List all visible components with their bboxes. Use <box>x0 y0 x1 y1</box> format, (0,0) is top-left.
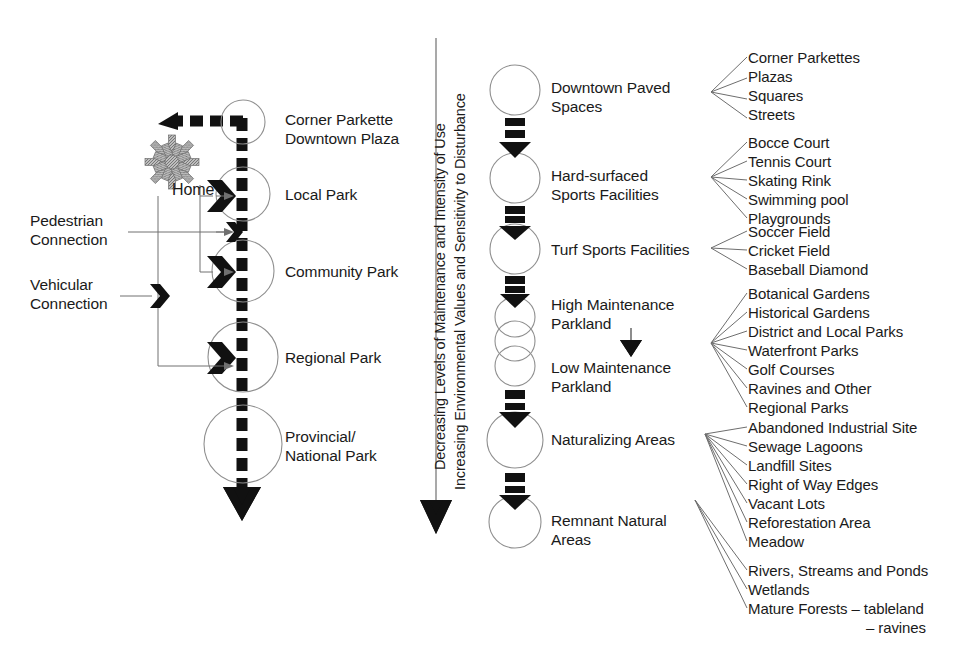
mid-node-label-downtown-paved-line2: Spaces <box>551 97 602 116</box>
left-node-label-provincial-park-line1: Provincial/ <box>285 427 355 446</box>
list-item: Ravines and Other <box>748 379 871 399</box>
axis-label-maintenance: Decreasing Levels of Maintenance and Int… <box>432 123 448 470</box>
list-item: Squares <box>748 86 803 106</box>
left-node-label-corner-parkette-line1: Corner Parkette <box>285 110 393 129</box>
list-item: Mature Forests – tableland <box>748 599 924 619</box>
list-item: District and Local Parks <box>748 322 903 342</box>
left-node-label-regional-park: Regional Park <box>285 348 381 367</box>
left-node-label-community-park: Community Park <box>285 262 398 281</box>
mid-node-label-high-maintenance-line2: Parkland <box>551 314 611 333</box>
left-trunk-dashed-path <box>223 118 261 521</box>
list-item: Vacant Lots <box>748 494 825 514</box>
list-item: Cricket Field <box>748 241 830 261</box>
list-item: Plazas <box>748 67 792 87</box>
list-item: Botanical Gardens <box>748 284 870 304</box>
list-item: Waterfront Parks <box>748 341 858 361</box>
list-item: Soccer Field <box>748 222 830 242</box>
list-item: – ravines <box>866 618 926 638</box>
list-item: Baseball Diamond <box>748 260 868 280</box>
mid-node-label-low-maintenance-line2: Parkland <box>551 377 611 396</box>
list-item: Wetlands <box>748 580 809 600</box>
axis-label-environmental: Increasing Environmental Values and Sens… <box>452 93 468 490</box>
list-item: Reforestation Area <box>748 513 870 533</box>
mid-node-label-low-maintenance-line1: Low Maintenance <box>551 358 671 377</box>
diagram-canvas: Decreasing Levels of Maintenance and Int… <box>0 0 979 653</box>
list-item: Rivers, Streams and Ponds <box>748 561 928 581</box>
vehicular-connection-label-line1: Vehicular <box>30 275 93 294</box>
vehicular-connection-label-line2: Connection <box>30 294 107 313</box>
mid-node-label-turf-sports: Turf Sports Facilities <box>551 240 689 259</box>
list-item: Streets <box>748 105 795 125</box>
mid-node-label-remnant-natural-line2: Areas <box>551 530 591 549</box>
home-label: Home <box>172 180 214 199</box>
list-item: Abandoned Industrial Site <box>748 418 917 438</box>
middle-connectors <box>499 118 531 510</box>
list-item: Bocce Court <box>748 133 829 153</box>
home-dashed-branch <box>158 112 243 130</box>
mid-node-label-downtown-paved-line1: Downtown Paved <box>551 78 670 97</box>
mid-node-label-remnant-natural-line1: Remnant Natural <box>551 511 667 530</box>
list-item: Landfill Sites <box>748 456 832 476</box>
mid-circle-parkland-c <box>495 346 535 386</box>
left-node-label-corner-parkette-line2: Downtown Plaza <box>285 129 399 148</box>
list-item: Swimming pool <box>748 190 848 210</box>
list-item: Sewage Lagoons <box>748 437 863 457</box>
mid-node-label-naturalizing-areas: Naturalizing Areas <box>551 430 675 449</box>
mid-node-label-high-maintenance-line1: High Maintenance <box>551 295 674 314</box>
mid-node-label-hard-surfaced-line2: Sports Facilities <box>551 185 659 204</box>
list-item: Right of Way Edges <box>748 475 878 495</box>
mid-circle-downtown-paved <box>490 65 540 115</box>
mid-circle-hard-surfaced <box>490 153 540 203</box>
list-item: Skating Rink <box>748 171 831 191</box>
list-item: Historical Gardens <box>748 303 870 323</box>
left-node-label-local-park: Local Park <box>285 185 357 204</box>
list-item: Golf Courses <box>748 360 834 380</box>
mid-circle-parkland-b <box>495 321 535 361</box>
list-item: Tennis Court <box>748 152 831 172</box>
pedestrian-connection-label-line2: Connection <box>30 230 107 249</box>
list-item: Meadow <box>748 532 804 552</box>
pedestrian-connection-label-line1: Pedestrian <box>30 211 103 230</box>
maintenance-transition-arrow <box>620 328 642 357</box>
fan-leader-lines <box>695 57 747 608</box>
mid-node-label-hard-surfaced-line1: Hard-surfaced <box>551 166 648 185</box>
left-node-label-provincial-park-line2: National Park <box>285 446 377 465</box>
list-item: Regional Parks <box>748 398 848 418</box>
vehicular-chevron <box>150 284 170 308</box>
list-item: Corner Parkettes <box>748 48 860 68</box>
